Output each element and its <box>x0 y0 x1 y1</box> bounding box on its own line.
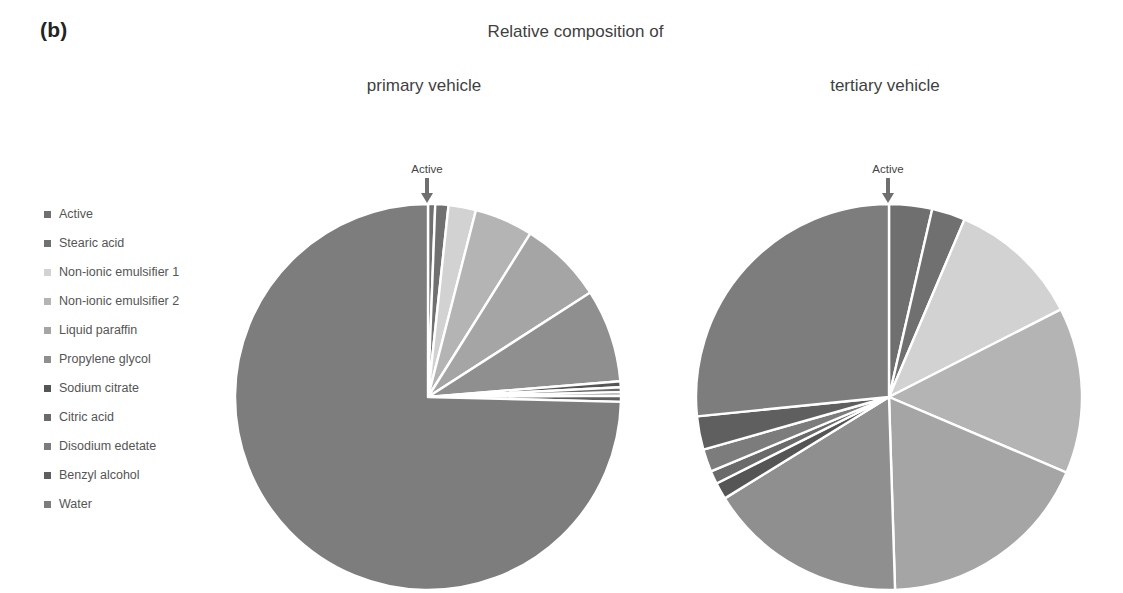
legend-item-label: Disodium edetate <box>59 440 156 453</box>
legend-swatch-icon <box>44 298 51 305</box>
chart-main-title: Relative composition of <box>0 22 1123 42</box>
legend-item-label: Benzyl alcohol <box>59 469 140 482</box>
legend-item: Non-ionic emulsifier 1 <box>44 258 254 287</box>
legend-item: Liquid paraffin <box>44 316 254 345</box>
legend-item: Citric acid <box>44 403 254 432</box>
legend-swatch-icon <box>44 385 51 392</box>
legend-item: Disodium edetate <box>44 432 254 461</box>
legend-item-label: Liquid paraffin <box>59 324 137 337</box>
legend-item-label: Stearic acid <box>59 237 124 250</box>
legend-swatch-icon <box>44 269 51 276</box>
legend-item: Stearic acid <box>44 229 254 258</box>
down-arrow-icon <box>382 178 472 208</box>
legend-item: Sodium citrate <box>44 374 254 403</box>
legend-item: Non-ionic emulsifier 2 <box>44 287 254 316</box>
chart-subtitle-primary: primary vehicle <box>274 76 574 96</box>
pie-tertiary <box>689 197 1089 593</box>
legend-swatch-icon <box>44 443 51 450</box>
callout-label-primary: Active <box>382 163 472 175</box>
pie-chart-primary-vehicle <box>228 197 628 593</box>
legend-item-label: Non-ionic emulsifier 2 <box>59 295 179 308</box>
legend-item-label: Active <box>59 208 93 221</box>
chart-legend: ActiveStearic acidNon-ionic emulsifier 1… <box>44 200 254 519</box>
pie-slice <box>696 204 889 416</box>
legend-item-label: Water <box>59 498 92 511</box>
legend-swatch-icon <box>44 356 51 363</box>
legend-swatch-icon <box>44 327 51 334</box>
legend-item-label: Non-ionic emulsifier 1 <box>59 266 179 279</box>
legend-swatch-icon <box>44 240 51 247</box>
legend-item: Benzyl alcohol <box>44 461 254 490</box>
down-arrow-icon <box>843 178 933 208</box>
chart-subtitle-tertiary: tertiary vehicle <box>735 76 1035 96</box>
legend-item-label: Sodium citrate <box>59 382 139 395</box>
pie-chart-tertiary-vehicle <box>689 197 1089 593</box>
legend-item-label: Citric acid <box>59 411 114 424</box>
legend-item: Propylene glycol <box>44 345 254 374</box>
legend-item: Active <box>44 200 254 229</box>
legend-swatch-icon <box>44 472 51 479</box>
callout-label-tertiary: Active <box>843 163 933 175</box>
legend-swatch-icon <box>44 211 51 218</box>
legend-swatch-icon <box>44 501 51 508</box>
legend-item-label: Propylene glycol <box>59 353 151 366</box>
pie-primary <box>228 197 628 593</box>
legend-item: Water <box>44 490 254 519</box>
legend-swatch-icon <box>44 414 51 421</box>
